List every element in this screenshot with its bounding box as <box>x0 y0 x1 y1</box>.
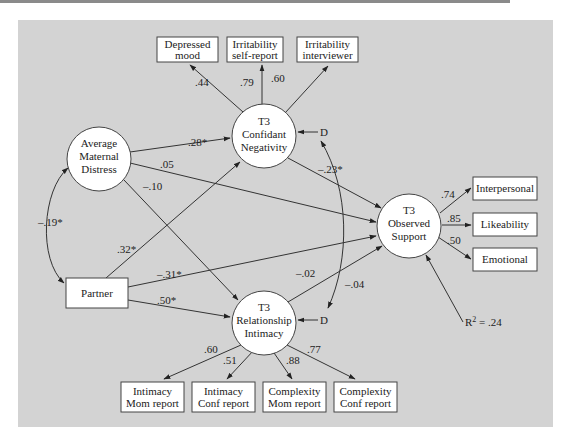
svg-text:Interpersonal: Interpersonal <box>476 182 534 194</box>
path-negativity-irr-interviewer <box>285 66 328 113</box>
indicator-depressed-mood: Depressed mood <box>157 37 218 62</box>
loading-likeability: .85 <box>447 212 461 224</box>
coef-partner-support: –.31* <box>156 268 182 280</box>
indicator-intimacy-conf: Intimacy Conf report <box>192 382 255 412</box>
coef-distress-support: .05 <box>160 158 174 170</box>
disturbance-intimacy: D <box>320 314 328 326</box>
svg-text:Maternal: Maternal <box>79 150 119 162</box>
coef-partner-intimacy: .50* <box>157 294 176 306</box>
indicator-intimacy-mom: Intimacy Mom report <box>121 382 184 412</box>
path-r2-support <box>426 255 463 322</box>
disturbance-negativity: D <box>320 126 328 138</box>
indicator-likeability: Likeability <box>473 213 537 236</box>
loading-complexity-mom: .88 <box>286 354 300 366</box>
latent-maternal-distress: Average Maternal Distress <box>67 127 131 191</box>
latent-observed-support: T3 Observed Support <box>377 194 441 258</box>
coef-disturbance-cov: –.04 <box>344 278 365 290</box>
loading-interpersonal: .74 <box>441 188 455 200</box>
loading-depressed: .44 <box>195 76 209 88</box>
svg-text:Intimacy: Intimacy <box>133 385 173 397</box>
svg-text:Likeability: Likeability <box>481 218 530 230</box>
svg-text:interviewer: interviewer <box>302 49 352 61</box>
svg-text:Confidant: Confidant <box>242 128 286 140</box>
loading-complexity-conf: .77 <box>307 343 321 355</box>
coef-intimacy-support: –.02 <box>295 267 315 279</box>
coef-partner-negativity: .32* <box>117 243 136 255</box>
loading-intimacy-mom: .60 <box>204 343 218 355</box>
loading-irr-self: .79 <box>240 76 254 88</box>
latent-confidant-negativity: T3 Confidant Negativity <box>232 104 296 168</box>
indicator-irritability-self-report: Irritability self-report <box>227 37 283 62</box>
loading-emotional: .50 <box>447 234 461 246</box>
loading-intimacy-conf: .51 <box>223 354 237 366</box>
svg-text:Support: Support <box>392 230 427 242</box>
sem-diagram: Depressed mood Irritability self-report … <box>0 0 569 442</box>
loading-irr-interviewer: .60 <box>271 72 285 84</box>
observed-partner: Partner <box>66 278 128 308</box>
coef-distress-negativity: .28* <box>188 136 207 148</box>
indicator-complexity-conf: Complexity Conf report <box>334 382 397 412</box>
svg-text:Conf report: Conf report <box>198 397 249 409</box>
svg-text:T3: T3 <box>258 115 271 127</box>
svg-text:Conf report: Conf report <box>340 397 391 409</box>
svg-text:self-report: self-report <box>232 49 278 61</box>
indicator-emotional: Emotional <box>473 248 537 271</box>
svg-text:Negativity: Negativity <box>241 141 288 153</box>
coef-distress-intimacy: –.10 <box>142 180 163 192</box>
path-distress-negativity <box>130 138 230 152</box>
svg-text:Complexity: Complexity <box>269 385 321 397</box>
svg-text:T3: T3 <box>403 204 416 216</box>
indicator-interpersonal: Interpersonal <box>473 177 537 200</box>
svg-text:T3: T3 <box>258 301 271 313</box>
path-distress-intimacy <box>124 180 238 300</box>
svg-text:Intimacy: Intimacy <box>204 385 244 397</box>
svg-text:Partner: Partner <box>81 287 113 299</box>
path-negativity-depressed <box>190 65 243 112</box>
indicator-complexity-mom: Complexity Mom report <box>263 382 326 412</box>
svg-text:Relationship: Relationship <box>236 314 292 326</box>
svg-text:Average: Average <box>81 137 118 149</box>
r-squared-label: R2 = .24 <box>465 315 502 328</box>
path-partner-negativity <box>106 162 240 278</box>
svg-text:Complexity: Complexity <box>340 385 392 397</box>
svg-text:Intimacy: Intimacy <box>244 327 284 339</box>
svg-text:Mom report: Mom report <box>126 397 179 409</box>
svg-text:Distress: Distress <box>81 163 116 175</box>
coef-negativity-support: –.23* <box>317 163 343 175</box>
latent-relationship-intimacy: T3 Relationship Intimacy <box>232 291 296 355</box>
svg-text:Emotional: Emotional <box>482 253 528 265</box>
path-partner-intimacy <box>128 300 230 317</box>
coef-distress-partner-cov: –.19* <box>37 216 63 228</box>
svg-text:Observed: Observed <box>388 217 431 229</box>
svg-text:Mom report: Mom report <box>268 397 321 409</box>
indicator-irritability-interviewer: Irritability interviewer <box>297 37 358 62</box>
svg-text:mood: mood <box>175 49 201 61</box>
